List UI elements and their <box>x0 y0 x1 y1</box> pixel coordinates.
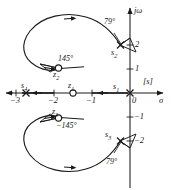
tick-label-neg2-imag: −2 <box>134 136 144 145</box>
zero-label-z2-sub: 2 <box>56 75 59 81</box>
zero-label-z3: z3 <box>52 108 58 118</box>
tick-label-neg1: −1 <box>86 96 96 105</box>
tick-label-neg2: −2 <box>48 96 58 105</box>
imaginary-axis-label: jω <box>134 6 142 15</box>
zero-label-z3-sub: 3 <box>55 112 58 118</box>
pole-label-s4: s4 <box>21 82 27 92</box>
pole-label-s3: s3 <box>105 131 111 141</box>
locus-tail-upper <box>60 67 84 69</box>
pole-label-s2-sub: 2 <box>114 53 117 59</box>
root-locus-figure: −3 −2 −1 0 2 1 −1 −2 jω σ [s] s1 s2 s3 s… <box>0 0 174 190</box>
angle-label-s3: 79° <box>106 158 117 166</box>
pole-label-s3-sub: 3 <box>108 135 111 141</box>
tick-label-pos1-imag: 1 <box>135 64 139 73</box>
angle-label-z3: −145° <box>56 122 77 130</box>
pole-label-s1: s1 <box>113 83 119 93</box>
pole-label-s4-sub: 4 <box>24 86 27 92</box>
tick-label-neg1-imag: −1 <box>134 112 144 121</box>
s-plane-label: [s] <box>143 77 153 86</box>
pole-label-s1-sub: 1 <box>116 87 119 93</box>
locus-arrow-upper-top <box>64 18 74 19</box>
locus-arrow-lower-bottom <box>64 167 74 168</box>
zero-label-z2: z2 <box>53 71 59 81</box>
zero-label-z1-sub: 1 <box>71 86 74 92</box>
angle-label-z2: 145° <box>58 55 73 63</box>
tick-label-zero: 0 <box>132 96 136 105</box>
locus-tail-lower <box>60 118 84 120</box>
angle-label-s2: 79° <box>104 18 115 26</box>
tick-label-neg3: −3 <box>10 96 20 105</box>
tick-label-pos2-imag: 2 <box>135 40 139 49</box>
zero-label-z1: z1 <box>68 82 74 92</box>
real-axis-label: σ <box>159 96 163 105</box>
pole-label-s2: s2 <box>111 49 117 59</box>
